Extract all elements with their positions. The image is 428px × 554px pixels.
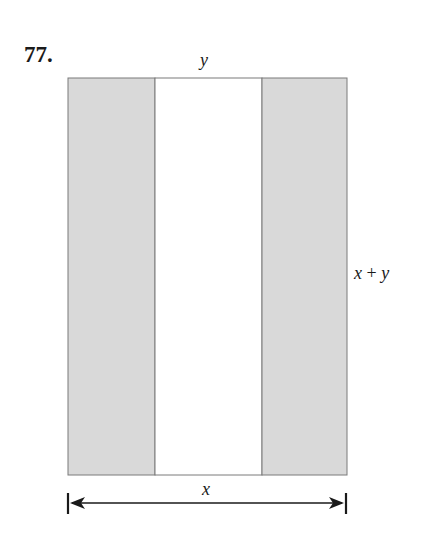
right-shaded-strip xyxy=(262,78,347,475)
middle-unshaded-strip xyxy=(155,78,262,475)
right-side-label: x + y xyxy=(354,263,389,284)
right-label-var1: x xyxy=(354,263,362,283)
top-side-label: y xyxy=(200,50,208,71)
left-shaded-strip xyxy=(68,78,155,475)
right-label-operator: + xyxy=(367,263,377,283)
bottom-width-label: x xyxy=(202,479,210,500)
right-label-var2: y xyxy=(381,263,389,283)
